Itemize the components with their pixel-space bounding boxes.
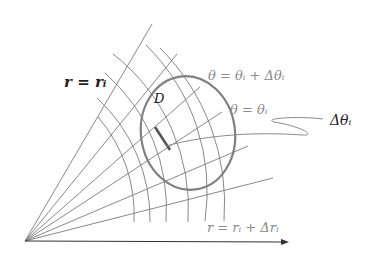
polar-region-diagram	[0, 0, 374, 263]
arrow-head-icon	[281, 239, 289, 245]
x-axis	[25, 239, 289, 245]
label-theta-upper: θ = θᵢ + Δθᵢ	[208, 68, 284, 83]
label-delta-theta: Δθᵢ	[330, 112, 351, 128]
delta-theta-pointer	[166, 118, 323, 146]
label-region-d: D	[154, 91, 164, 106]
delta-theta-segment	[155, 127, 170, 150]
label-theta-lower: θ = θᵢ	[230, 102, 267, 117]
label-r-equals-ri: r = rᵢ	[64, 73, 106, 91]
label-r-upper: r = rᵢ + Δrᵢ	[207, 220, 279, 235]
